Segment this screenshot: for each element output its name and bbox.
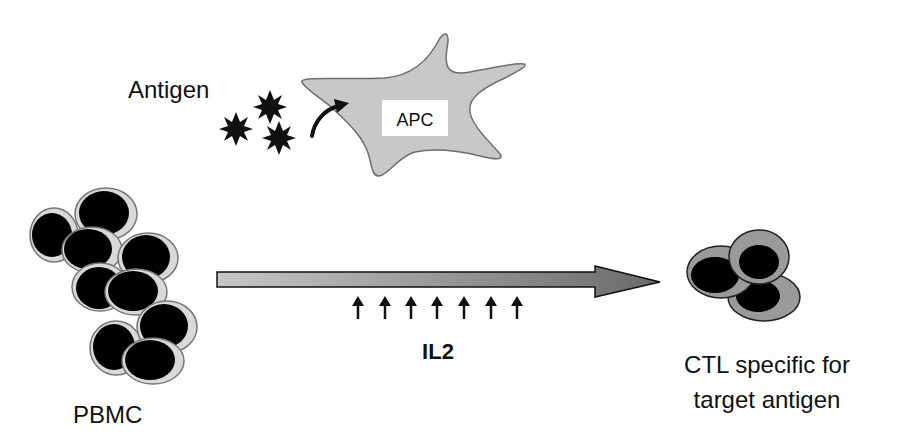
antigen-stars — [219, 90, 296, 155]
il2-up-arrow-icon — [405, 296, 417, 319]
antigen-star-icon — [253, 90, 287, 124]
expansion-arrow-icon — [217, 266, 660, 297]
il2-label: IL2 — [422, 339, 454, 364]
apc-label: APC — [396, 110, 433, 130]
pbmc-label: PBMC — [73, 401, 142, 428]
antigen-label: Antigen — [128, 76, 209, 103]
pbmc-cluster — [30, 188, 197, 384]
diagram-canvas: APC Antigen — [0, 0, 903, 442]
il2-arrows — [352, 296, 523, 319]
il2-up-arrow-icon — [458, 296, 470, 319]
il2-up-arrow-icon — [511, 296, 523, 319]
il2-up-arrow-icon — [485, 296, 497, 319]
antigen-star-icon — [219, 112, 253, 146]
il2-up-arrow-icon — [379, 296, 391, 319]
pbmc-cell — [122, 338, 184, 384]
ctl-label-line2: target antigen — [694, 386, 841, 413]
ctl-cell — [729, 230, 789, 284]
antigen-star-icon — [262, 121, 296, 155]
il2-up-arrow-icon — [431, 296, 443, 319]
ctl-cluster — [687, 230, 800, 321]
ctl-label-line1: CTL specific for — [684, 351, 850, 378]
il2-up-arrow-icon — [352, 296, 364, 319]
